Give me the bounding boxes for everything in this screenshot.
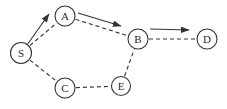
path-arrow-a-to-b [78,13,121,26]
node-label-b: B [134,33,141,45]
node-label-e: E [118,80,125,92]
node-b: B [128,29,148,49]
edge-s-a [30,23,57,46]
graph-diagram: SABDCE [0,0,227,109]
node-label-a: A [61,10,69,22]
node-d: D [197,29,217,49]
node-label-s: S [18,47,24,59]
path-arrow-b-to-d [150,29,189,30]
path-arrow-s-to-a [27,14,49,45]
node-a: A [55,6,75,26]
edge-s-c [30,60,56,81]
node-label-d: D [203,33,211,45]
node-s: S [11,43,32,64]
edge-e-b [125,49,135,76]
edge-c-e [76,86,111,87]
node-label-c: C [61,82,68,94]
graph-svg: SABDCE [0,0,227,109]
node-e: E [112,77,131,96]
node-c: C [55,78,75,98]
edge-a-b [75,19,127,35]
